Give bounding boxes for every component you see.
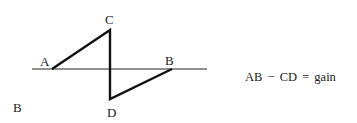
equation: AB − CD = gain [245,70,336,85]
label-c: C [105,13,114,26]
zigzag-path [52,30,172,99]
label-a: A [40,55,49,68]
diagram-canvas [0,0,357,123]
label-b-right: B [165,54,174,67]
label-b-side: B [13,101,22,114]
label-d: D [107,106,116,119]
